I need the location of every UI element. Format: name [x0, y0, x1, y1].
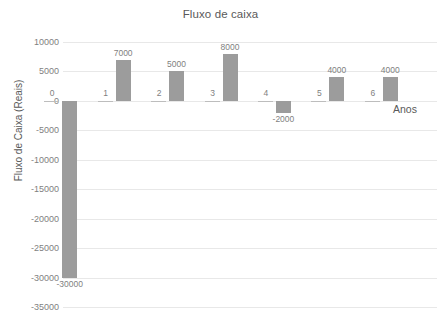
axis-stub: [205, 101, 220, 102]
bar-value-label: -30000: [50, 280, 90, 289]
gridline: [63, 307, 437, 308]
axis-stub: [98, 101, 113, 102]
axis-stub: [258, 101, 273, 102]
bar-value-label: 8000: [210, 43, 250, 52]
x-category-label: 0: [35, 89, 69, 98]
axis-stub: [44, 101, 59, 102]
gridline: [63, 278, 437, 279]
y-tick-label: 10000: [5, 38, 59, 47]
y-tick-label: -20000: [5, 215, 59, 224]
gridline: [63, 160, 437, 161]
x-category-label: 4: [249, 89, 283, 98]
bar: [62, 101, 77, 278]
bar-chart: Fluxo de caixa Fluxo de Caixa (Reais) An…: [0, 0, 441, 328]
bar-value-label: -2000: [263, 115, 303, 124]
bar-value-label: 5000: [157, 60, 197, 69]
bar-value-label: 4000: [370, 66, 410, 75]
y-axis-tick-labels: 1000050000-5000-10000-15000-20000-25000-…: [0, 42, 59, 307]
x-category-label: 2: [142, 89, 176, 98]
bar-value-label: 7000: [103, 49, 143, 58]
plot-area: 0-300001700025000380004-20005400064000: [63, 42, 437, 307]
bar-value-label: 4000: [317, 66, 357, 75]
y-tick-label: -10000: [5, 156, 59, 165]
y-tick-label: 5000: [5, 67, 59, 76]
y-tick-label: -5000: [5, 126, 59, 135]
axis-stub: [151, 101, 166, 102]
y-tick-label: -25000: [5, 244, 59, 253]
gridline: [63, 219, 437, 220]
x-category-label: 5: [302, 89, 336, 98]
chart-title: Fluxo de caixa: [0, 8, 441, 20]
gridline: [63, 101, 437, 102]
gridline: [63, 130, 437, 131]
bar: [276, 101, 291, 113]
gridline: [63, 42, 437, 43]
x-category-label: 6: [356, 89, 390, 98]
y-tick-label: -15000: [5, 185, 59, 194]
x-category-label: 3: [196, 89, 230, 98]
x-category-label: 1: [89, 89, 123, 98]
y-tick-label: -35000: [5, 303, 59, 312]
gridline: [63, 189, 437, 190]
axis-stub: [365, 101, 380, 102]
axis-stub: [311, 101, 326, 102]
gridline: [63, 248, 437, 249]
